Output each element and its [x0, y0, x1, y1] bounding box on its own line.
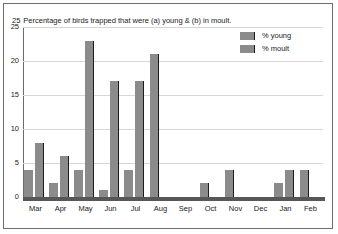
y-axis-tick-label: 0 [15, 193, 19, 201]
x-axis-label: Sep [173, 204, 198, 213]
x-axis-label: Mar [23, 204, 48, 213]
bar-group [73, 27, 98, 197]
x-axis-label: Jun [98, 204, 123, 213]
x-axis-label: Jan [273, 204, 298, 213]
x-axis-baseline [23, 197, 325, 201]
bar-moult [60, 156, 69, 197]
bar-group [248, 27, 273, 197]
bar-group [123, 27, 148, 197]
bar-group [98, 27, 123, 197]
bar-young [99, 190, 108, 197]
bar-group [223, 27, 248, 197]
bar-moult [150, 54, 159, 197]
x-axis-label: Dec [248, 204, 273, 213]
bar-group [48, 27, 73, 197]
bar-young [274, 183, 283, 197]
bar-young [124, 170, 133, 197]
bar-moult [35, 143, 44, 197]
x-axis-label: Aug [148, 204, 173, 213]
plot-area: 2520151050 [23, 27, 323, 197]
bar-group [148, 27, 173, 197]
y-axis-tick-label: 10 [11, 125, 19, 133]
bar-young [24, 170, 33, 197]
x-axis-label: Feb [298, 204, 323, 213]
chart-title: 25Percentage of birds trapped that were … [12, 9, 312, 21]
x-axis-label: Jul [123, 204, 148, 213]
bar-moult [85, 41, 94, 197]
bar-group [198, 27, 223, 197]
bar-group [273, 27, 298, 197]
bar-moult [110, 81, 119, 197]
bar-young [49, 183, 58, 197]
bar-moult [300, 170, 309, 197]
x-axis-label: Apr [48, 204, 73, 213]
bar-group [173, 27, 198, 197]
bar-moult [285, 170, 294, 197]
bar-groups [23, 27, 323, 197]
x-axis-label: May [73, 204, 98, 213]
bar-young [74, 170, 83, 197]
bar-group [298, 27, 323, 197]
x-axis-labels: MarAprMayJunJulAugSepOctNovDecJanFeb [23, 204, 323, 213]
x-axis-label: Oct [198, 204, 223, 213]
bar-moult [200, 183, 209, 197]
bar-moult [135, 81, 144, 197]
y-axis-tick-label: 5 [15, 159, 19, 167]
chart-figure: 25Percentage of birds trapped that were … [3, 3, 333, 229]
x-axis-label: Nov [223, 204, 248, 213]
y-axis-tick-label: 15 [11, 91, 19, 99]
y-axis-tick-label: 20 [11, 57, 19, 65]
bar-group [23, 27, 48, 197]
bar-moult [225, 170, 234, 197]
y-axis-tick-label: 25 [11, 23, 19, 31]
chart-title-text: Percentage of birds trapped that were (a… [23, 16, 231, 25]
